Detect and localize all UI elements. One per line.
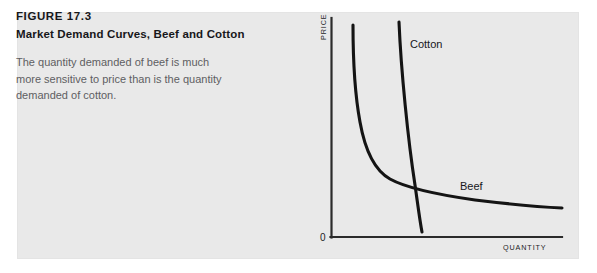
caption-block: FIGURE 17.3 Market Demand Curves, Beef a… — [16, 8, 256, 104]
figure-caption-text: The quantity demanded of beef is much mo… — [16, 54, 223, 104]
cotton-demand-curve — [399, 22, 422, 232]
beef-demand-curve — [353, 25, 562, 208]
demand-curves-chart: PRICE QUANTITY 0 Cotton Beef — [300, 0, 590, 273]
beef-curve-label: Beef — [460, 180, 484, 192]
x-axis-label: QUANTITY — [503, 243, 547, 252]
cotton-curve-label: Cotton — [410, 38, 442, 50]
chart-area: PRICE QUANTITY 0 Cotton Beef — [300, 0, 590, 273]
figure-number: FIGURE 17.3 — [16, 8, 256, 25]
origin-label: 0 — [320, 232, 326, 243]
y-axis-label: PRICE — [319, 14, 328, 40]
figure-root: FIGURE 17.3 Market Demand Curves, Beef a… — [0, 0, 597, 273]
figure-title: Market Demand Curves, Beef and Cotton — [16, 26, 256, 43]
